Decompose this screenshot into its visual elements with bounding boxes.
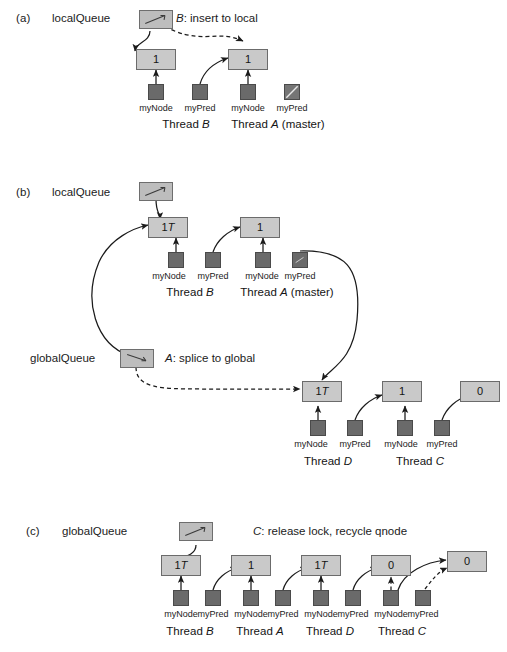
node-a-1[interactable]: 1 [228,49,268,70]
thread-prefix-b-global-0: Thread [304,455,344,467]
pointer-slash-icon [140,11,172,28]
panel-label-a: (a) [16,12,30,24]
pointer-c-mynode-c[interactable] [383,590,399,606]
thread-prefix-a-0: Thread [162,118,202,130]
field-label-b-local-0: myNode [146,271,192,281]
panel-label-b: (b) [16,186,30,198]
node-b-local-0[interactable]: 1T [148,217,188,238]
pointer-b-local-mynode-b[interactable] [168,252,184,268]
thread-prefix-b-local-1: Thread [240,286,280,298]
pointer-a-mynode-b[interactable] [148,84,164,100]
action-label-a: B: insert to local [176,12,258,24]
node-b-global-1[interactable]: 1 [382,381,422,402]
arrow-localqueue-to-node1t-b [156,199,160,219]
action-text-c: : release lock, recycle qnode [261,525,407,537]
pointer-c-mypred-c[interactable] [415,590,431,606]
arrow-localqueue-to-node1-a [135,31,150,51]
thread-label-a-0: Thread B [146,118,226,130]
thread-name-c-0: B [206,625,214,637]
node-c-1[interactable]: 1 [231,555,271,576]
pointer-slash-icon [121,350,153,367]
node-c-2[interactable]: 1T [301,555,341,576]
pointer-b-local-mypred-b[interactable] [205,252,221,268]
queue-label-globalqueue-b: globalQueue [30,352,95,364]
thread-prefix-c-2: Thread [306,625,346,637]
node-b-global-0[interactable]: 1T [302,381,342,402]
arrow-mypred-b-to-node1-b [213,227,240,252]
action-label-b: A: splice to global [165,352,255,364]
pointer-b-global-mypred-d[interactable] [347,420,363,436]
node-value-b-global-1: 1 [399,386,405,397]
action-actor-b: A [165,352,173,364]
thread-prefix-c-0: Thread [166,625,206,637]
thread-prefix-b-global-1: Thread [396,455,436,467]
pointer-c-mynode-b[interactable] [173,590,189,606]
node-value-b-global-2: 0 [477,386,483,397]
pointer-a-mynode-a[interactable] [240,84,256,100]
field-label-b-global-1: myPred [332,439,378,449]
arrow-mypred-c-to-last0-c [425,568,447,589]
pointer-c-mypred-a[interactable] [275,590,291,606]
node-a-0[interactable]: 1 [136,49,176,70]
pointer-b-global-mynode-c[interactable] [397,420,413,436]
pointer-b-local-mypred-a[interactable] [292,252,308,268]
globalqueue-qnode-b[interactable] [120,349,154,368]
node-b-local-1[interactable]: 1 [240,217,280,238]
thread-name-c-3: C [418,625,426,637]
field-label-c-7: myPred [400,609,446,619]
field-label-b-local-3: myPred [277,271,323,281]
thread-prefix-c-3: Thread [378,625,418,637]
pointer-c-mynode-d[interactable] [313,590,329,606]
thread-prefix-b-local-0: Thread [166,286,206,298]
thread-name-b-local-1: A [280,286,288,298]
node-value-a-1: 1 [245,54,251,65]
thread-prefix-c-1: Thread [236,625,276,637]
pointer-c-mypred-b[interactable] [205,590,221,606]
queue-label-localqueue-a: localQueue [52,12,110,24]
node-c-3[interactable]: 0 [371,555,411,576]
localqueue-qnode-a[interactable] [139,10,173,29]
field-label-b-global-3: myPred [419,439,465,449]
node-c-0[interactable]: 1T [161,555,201,576]
field-label-b-local-1: myPred [190,271,236,281]
node-value-a-0: 1 [153,54,159,65]
thread-label-b-local-0: Thread B [150,286,230,298]
thread-prefix-a-1: Thread [231,118,271,130]
node-c-4[interactable]: 0 [447,551,487,572]
queue-label-localqueue-b: localQueue [52,186,110,198]
globalqueue-qnode-c[interactable] [179,522,213,541]
action-label-c: C: release lock, recycle qnode [253,525,407,537]
pointer-a-mypred-b[interactable] [192,84,208,100]
thread-label-c-3: Thread C [372,625,432,637]
arrow-mypred-b-to-node2-a [200,58,228,84]
action-text-b: : splice to global [173,352,255,364]
thread-label-b-global-0: Thread D [288,455,368,467]
field-label-b-global-2: myNode [378,439,424,449]
node-tag-c-2: T [321,560,328,571]
node-tag-c-0: T [181,560,188,571]
thread-name-c-1: A [276,625,284,637]
thread-label-c-2: Thread D [300,625,360,637]
node-value-c-1: 1 [248,560,254,571]
thread-name-a-1: A [271,118,279,130]
pointer-c-mypred-d[interactable] [345,590,361,606]
thread-label-c-1: Thread A [230,625,290,637]
pointer-b-global-mypred-c[interactable] [434,420,450,436]
pointer-b-local-mynode-a[interactable] [255,252,271,268]
thread-name-b-global-1: C [436,455,444,467]
thread-label-c-0: Thread B [160,625,220,637]
pointer-a-mypred-a-null[interactable] [284,84,300,100]
pointer-c-mynode-a[interactable] [243,590,259,606]
panel-label-c: (c) [26,525,40,537]
localqueue-qnode-b[interactable] [139,182,173,201]
node-value-c-4: 0 [464,556,470,567]
node-tag-b-global-0: T [322,386,329,397]
thread-name-c-2: D [346,625,354,637]
action-actor-a: B [176,12,184,24]
thread-name-a-0: B [202,118,210,130]
pointer-slash-icon [140,183,172,200]
pointer-b-global-mynode-d[interactable] [310,420,326,436]
thread-suffix-a-1: (master) [279,118,325,130]
node-b-global-2[interactable]: 0 [460,381,500,402]
field-label-a-3: myPred [262,103,322,113]
